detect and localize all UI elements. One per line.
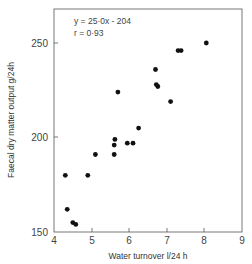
data-point bbox=[113, 137, 118, 142]
data-point bbox=[155, 84, 160, 89]
data-points bbox=[63, 41, 209, 227]
correlation-coefficient: r = 0·93 bbox=[74, 28, 104, 38]
data-point bbox=[153, 67, 158, 72]
data-point bbox=[112, 152, 117, 157]
x-tick-8: 8 bbox=[201, 235, 207, 246]
scatter-chart: 250 200 150 4 5 6 7 8 9 Water turnover l… bbox=[0, 0, 252, 264]
plot-frame bbox=[54, 9, 242, 232]
x-tick-6: 6 bbox=[126, 235, 132, 246]
data-point bbox=[125, 141, 130, 146]
x-axis-label: Water turnover l/24 h bbox=[108, 251, 187, 261]
y-tick-250: 250 bbox=[31, 38, 48, 49]
data-point bbox=[85, 173, 90, 178]
data-point bbox=[65, 207, 70, 212]
regression-equation: y = 25·0x - 204 bbox=[74, 16, 131, 26]
data-point bbox=[63, 173, 68, 178]
y-tick-150: 150 bbox=[31, 227, 48, 238]
x-tick-7: 7 bbox=[164, 235, 170, 246]
data-point bbox=[93, 152, 98, 157]
x-tick-9: 9 bbox=[239, 235, 245, 246]
x-tick-5: 5 bbox=[89, 235, 95, 246]
x-axis: 4 5 6 7 8 9 bbox=[51, 228, 245, 246]
data-point bbox=[112, 143, 117, 148]
data-point bbox=[204, 41, 209, 46]
data-point bbox=[168, 99, 173, 104]
data-point bbox=[136, 126, 141, 131]
data-point bbox=[131, 141, 136, 146]
data-point bbox=[116, 90, 121, 95]
x-tick-4: 4 bbox=[51, 235, 57, 246]
y-tick-200: 200 bbox=[31, 132, 48, 143]
data-point bbox=[73, 222, 78, 227]
data-point bbox=[179, 48, 184, 53]
y-axis-label: Faecal dry matter output g/24h bbox=[6, 62, 16, 178]
